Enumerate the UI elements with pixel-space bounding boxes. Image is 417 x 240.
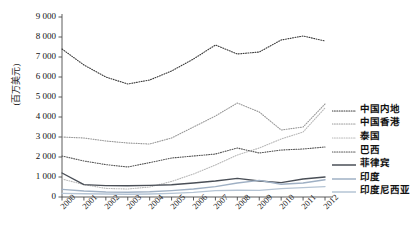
legend-label: 巴西 bbox=[360, 142, 380, 156]
legend-item-5[interactable]: 印度 bbox=[332, 169, 417, 183]
series-line-3 bbox=[62, 147, 325, 167]
legend-item-0[interactable]: 中国内地 bbox=[332, 101, 417, 115]
series-line-0 bbox=[62, 36, 325, 84]
legend-item-4[interactable]: 菲律宾 bbox=[332, 155, 417, 169]
legend-item-6[interactable]: 印度尼西亚 bbox=[332, 183, 417, 197]
legend-label: 中国内地 bbox=[360, 101, 400, 115]
series-line-2 bbox=[62, 108, 325, 189]
legend-label: 印度 bbox=[360, 169, 380, 183]
legend-label: 印度尼西亚 bbox=[360, 182, 410, 196]
legend-label: 泰国 bbox=[360, 128, 380, 142]
legend-label: 中国香港 bbox=[360, 114, 400, 128]
chart-legend: 中国内地中国香港泰国巴西菲律宾印度印度尼西亚 bbox=[332, 101, 417, 196]
chart-container: (百万美元) 01 0002 0003 0004 0005 0006 0007 … bbox=[0, 0, 417, 240]
legend-item-2[interactable]: 泰国 bbox=[332, 128, 417, 142]
legend-item-1[interactable]: 中国香港 bbox=[332, 115, 417, 129]
legend-label: 菲律宾 bbox=[360, 155, 390, 169]
legend-item-3[interactable]: 巴西 bbox=[332, 142, 417, 156]
